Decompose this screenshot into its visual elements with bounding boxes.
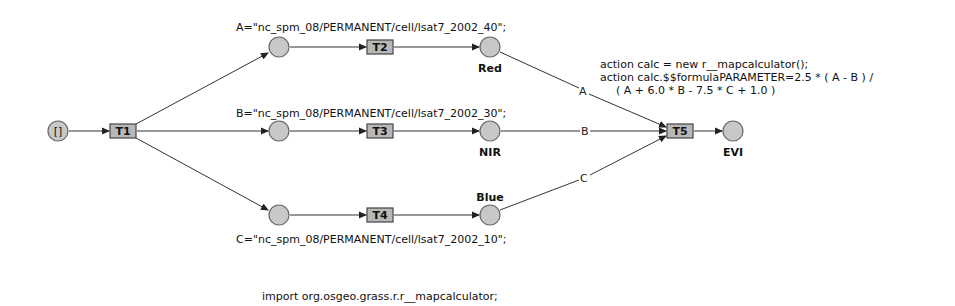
transition-t5-label: T5 <box>672 125 687 138</box>
place-blue[interactable] <box>480 205 500 225</box>
arc-label-a: A <box>579 85 587 98</box>
edge-t1-pc <box>136 138 268 210</box>
place-c[interactable] <box>269 205 289 225</box>
transition-t4-label: T4 <box>372 209 388 222</box>
action-code-line-2: action calc.$$formulaPARAMETER=2.5 * ( A… <box>600 71 873 84</box>
assignment-c: C="nc_spm_08/PERMANENT/cell/lsat7_2002_1… <box>236 233 506 246</box>
assignment-a: A="nc_spm_08/PERMANENT/cell/lsat7_2002_4… <box>236 21 506 34</box>
edge-blue-t5-part1 <box>500 180 579 210</box>
edge-red-t5-part2 <box>589 94 666 127</box>
action-code-line-1: action calc = new r__mapcalculator(); <box>600 58 808 71</box>
place-red-label: Red <box>478 62 502 75</box>
transition-t2-label: T2 <box>372 41 387 54</box>
action-code-line-3: ( A + 6.0 * B - 7.5 * C + 1.0 ) <box>616 84 775 97</box>
place-evi[interactable] <box>723 121 743 141</box>
edge-blue-t5-part2 <box>590 136 666 175</box>
assignment-b: B="nc_spm_08/PERMANENT/cell/lsat7_2002_3… <box>236 107 506 120</box>
arc-label-c: C <box>580 172 588 185</box>
edge-red-t5-part1 <box>500 52 579 88</box>
transition-t3-label: T3 <box>372 125 387 138</box>
petri-net-diagram: A B C [] Red NIR Blue EVI T1 T2 T3 T4 T5… <box>0 0 955 306</box>
place-a[interactable] <box>269 37 289 57</box>
place-start-token: [] <box>54 125 63 138</box>
place-evi-label: EVI <box>723 146 743 159</box>
place-nir[interactable] <box>480 121 500 141</box>
place-red[interactable] <box>480 37 500 57</box>
transition-t1-label: T1 <box>115 125 130 138</box>
place-blue-label: Blue <box>476 191 503 204</box>
place-nir-label: NIR <box>479 146 501 159</box>
import-statement: import org.osgeo.grass.r.r__mapcalculato… <box>262 290 498 303</box>
arc-label-b: B <box>581 125 589 138</box>
place-b[interactable] <box>269 121 289 141</box>
